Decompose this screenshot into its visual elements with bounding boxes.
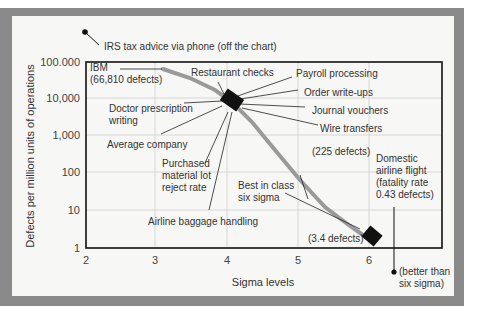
- x-axis: 2 3 4 5 6 Sigma levels: [83, 254, 372, 288]
- sigma-chart: 100.000 10,000 1,000 100 10 1 Defects pe…: [0, 0, 479, 317]
- y-tick: 10: [68, 204, 80, 216]
- annotation: (66,810 defects): [90, 74, 162, 85]
- annotation: Journal vouchers: [312, 105, 388, 116]
- annotation: Airline baggage handling: [148, 216, 258, 227]
- annotation: (225 defects): [312, 146, 370, 157]
- annotation: Average company: [107, 139, 187, 150]
- x-tick: 4: [224, 254, 230, 266]
- annotation: material lot: [162, 170, 211, 181]
- annotation: (3.4 defects): [308, 233, 364, 244]
- annotation: (fatality rate: [376, 177, 429, 188]
- y-axis-label: Defects per million units of operations: [24, 64, 36, 248]
- annotation: airline flight: [376, 165, 427, 176]
- y-axis: 100.000 10,000 1,000 100 10 1 Defects pe…: [24, 56, 80, 254]
- x-axis-label: Sigma levels: [232, 276, 295, 288]
- annotation: Purchased: [162, 158, 210, 169]
- annotation: (better than: [399, 266, 450, 277]
- annotation: 0.43 defects): [376, 189, 434, 200]
- annotation: reject rate: [162, 182, 207, 193]
- annotation: Best in class: [238, 180, 294, 191]
- annotation: Doctor prescription: [109, 103, 193, 114]
- annotation: Restaurant checks: [191, 67, 274, 78]
- x-tick: 5: [295, 254, 301, 266]
- annotation: Wire transfers: [320, 123, 382, 134]
- x-tick: 3: [152, 254, 158, 266]
- annotation: IRS tax advice via phone (off the chart): [104, 41, 277, 52]
- y-tick: 1: [74, 242, 80, 254]
- six-sigma-marker: [361, 225, 382, 246]
- x-tick: 6: [366, 254, 372, 266]
- y-tick: 1,000: [52, 129, 80, 141]
- annotation: Payroll processing: [296, 68, 378, 79]
- y-tick: 100.000: [40, 56, 80, 68]
- annotation: writing: [108, 115, 138, 126]
- y-tick: 100: [62, 166, 80, 178]
- annotation: six sigma: [238, 192, 280, 203]
- annotation: six sigma): [399, 278, 444, 289]
- annotation: Order write-ups: [304, 87, 373, 98]
- annotation: IBM: [90, 62, 108, 73]
- airline-marker: [391, 269, 396, 274]
- y-tick: 10,000: [46, 92, 80, 104]
- annotations: IRS tax advice via phone (off the chart)…: [90, 41, 450, 289]
- annotation: Domestic: [376, 153, 418, 164]
- x-tick: 2: [83, 254, 89, 266]
